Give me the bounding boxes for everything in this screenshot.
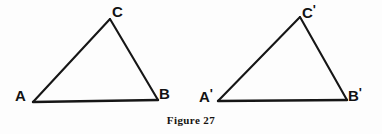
prime-mark-b: ': [359, 85, 362, 100]
vertex-label-c-prime: C': [302, 3, 316, 20]
vertex-label-b: B: [159, 86, 170, 101]
vertex-label-b-text: B: [159, 85, 170, 102]
segment-ac: [33, 19, 110, 102]
vertex-label-c: C: [112, 4, 123, 19]
segment-ac-prime: [218, 17, 300, 101]
prime-mark-a: ': [210, 86, 213, 101]
vertex-label-b-prime-text: B: [348, 87, 359, 104]
segment-cb-prime: [300, 17, 347, 100]
vertex-label-c-text: C: [112, 3, 123, 20]
segment-ab-prime: [218, 100, 347, 101]
segment-ab: [33, 100, 158, 102]
prime-mark-c: ': [313, 2, 316, 17]
figure-caption: Figure 27: [0, 114, 382, 126]
vertex-label-a-prime-text: A: [199, 88, 210, 105]
triangle-abc: [33, 19, 158, 102]
vertex-label-c-prime-text: C: [302, 4, 313, 21]
triangle-abc-prime: [218, 17, 347, 101]
vertex-label-a-text: A: [15, 87, 26, 104]
figure-27-container: A B C A' B' C' Figure 27: [0, 0, 382, 134]
segment-cb: [110, 19, 158, 100]
vertex-label-b-prime: B': [348, 86, 362, 103]
vertex-label-a-prime: A': [199, 87, 213, 104]
vertex-label-a: A: [15, 88, 26, 103]
